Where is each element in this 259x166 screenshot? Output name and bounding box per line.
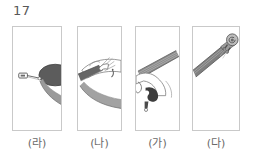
violin-body-bridge-strings-illustration (78, 27, 121, 130)
panel-frame (12, 26, 62, 131)
panel-item: (나) (77, 26, 122, 131)
panel-frame (192, 26, 240, 131)
panel-label: (가) (135, 137, 180, 151)
violin-endpin-tailpiece-illustration (13, 27, 61, 130)
panel-row: (라) (0, 0, 259, 166)
violin-scroll-pegbox-illustration (193, 27, 239, 130)
panel-item: (다) (192, 26, 240, 131)
panel-item: (가) (135, 26, 180, 131)
panel-frame (77, 26, 122, 131)
panel-label: (나) (77, 137, 122, 151)
violin-neck-fingerboard-f-hole-illustration (136, 27, 179, 130)
panel-item: (라) (12, 26, 62, 131)
question-figure: 17 (0, 0, 259, 166)
panel-label: (라) (12, 137, 62, 151)
panel-frame (135, 26, 180, 131)
panel-label: (다) (192, 137, 240, 151)
